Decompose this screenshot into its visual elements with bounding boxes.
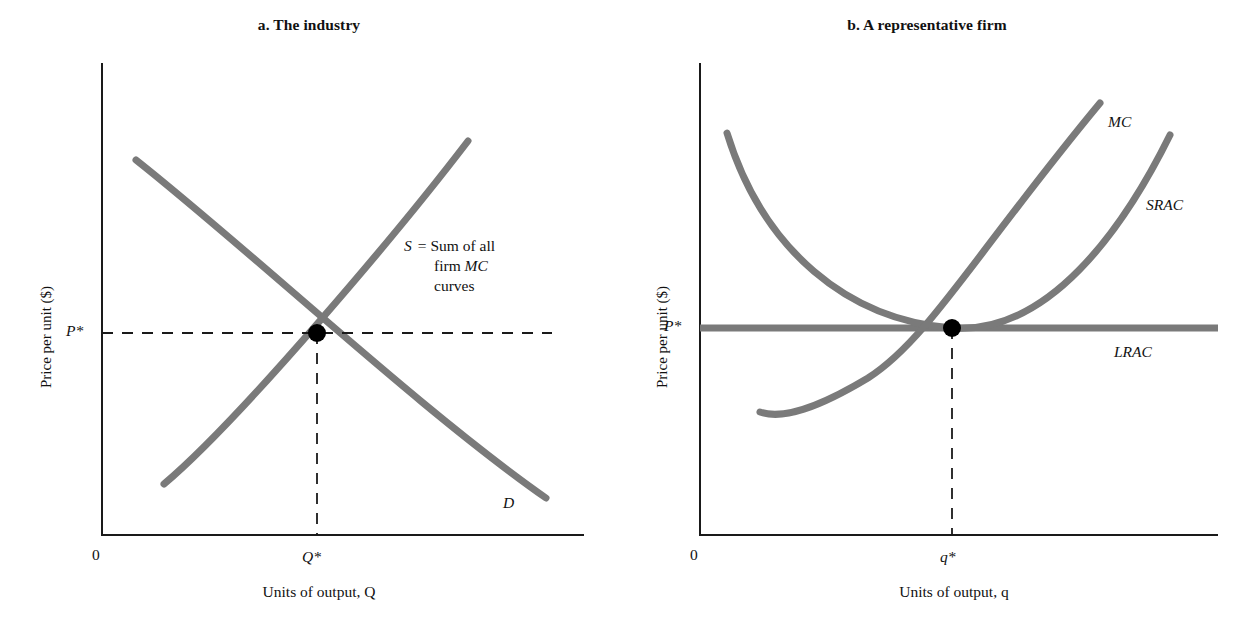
demand-curve	[136, 160, 546, 498]
figure-long-run-equilibrium: a. The industry Price per unit ($) P* 0 …	[0, 0, 1236, 620]
firm-price-tick-label: P*	[664, 317, 681, 335]
supply-curve-annotation: S=Sum of all firm MC curves	[404, 236, 495, 296]
lrac-curve-label: LRAC	[1114, 343, 1152, 361]
industry-equilibrium-point	[308, 324, 326, 342]
srac-curve-label: SRAC	[1146, 196, 1183, 214]
industry-origin-label: 0	[92, 546, 100, 564]
industry-plot	[0, 0, 618, 620]
demand-curve-label: D	[503, 494, 514, 512]
mc-curve	[760, 103, 1100, 414]
industry-price-tick-label: P*	[66, 322, 83, 340]
industry-y-axis-label: Price per unit ($)	[38, 286, 55, 388]
supply-annotation-line3: curves	[404, 276, 495, 296]
supply-symbol: S	[404, 237, 412, 254]
industry-quantity-tick-label: Q*	[302, 548, 321, 566]
firm-equilibrium-point	[943, 319, 961, 337]
mc-curve-label: MC	[1108, 113, 1131, 131]
supply-equals-sign: =	[412, 237, 431, 254]
firm-origin-label: 0	[690, 546, 698, 564]
supply-annotation-line2-prefix: firm	[434, 257, 465, 274]
firm-plot	[618, 0, 1236, 620]
supply-annotation-line1: Sum of all	[431, 237, 496, 254]
panel-industry: a. The industry Price per unit ($) P* 0 …	[0, 0, 618, 620]
industry-x-axis-label: Units of output, Q	[169, 583, 469, 601]
panel-representative-firm: b. A representative firm Price per unit …	[618, 0, 1236, 620]
firm-y-axis-label: Price per unit ($)	[654, 286, 671, 388]
firm-quantity-tick-label: q*	[940, 548, 956, 566]
firm-x-axis-label: Units of output, q	[804, 583, 1104, 601]
supply-annotation-mc-symbol: MC	[465, 257, 488, 274]
supply-annotation-line2: firm MC	[404, 256, 495, 276]
